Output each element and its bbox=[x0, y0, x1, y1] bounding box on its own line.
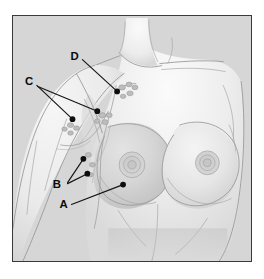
node-central-3 bbox=[102, 120, 108, 125]
node-central-4 bbox=[95, 119, 101, 123]
callout-b-dot-1 bbox=[81, 156, 87, 162]
node-central-1 bbox=[99, 113, 106, 118]
callout-c-dot-2 bbox=[94, 108, 100, 114]
node-central-2 bbox=[106, 113, 112, 118]
node-pectoral-2 bbox=[89, 163, 95, 168]
lower-torso-shade bbox=[108, 228, 227, 261]
callout-b-label: B bbox=[53, 178, 61, 190]
node-apical-4 bbox=[127, 91, 133, 96]
node-apical-1 bbox=[119, 85, 126, 90]
callout-d-label: D bbox=[71, 50, 79, 62]
node-pectoral-1 bbox=[85, 152, 91, 157]
right-nipple bbox=[203, 159, 211, 167]
callout-a-dot bbox=[120, 182, 126, 188]
illustration-frame: A B C D bbox=[12, 15, 252, 262]
callout-c-label: C bbox=[25, 75, 33, 87]
anatomy-illustration: A B C D bbox=[13, 16, 251, 261]
left-nipple bbox=[128, 161, 136, 169]
node-lateral-3 bbox=[62, 127, 68, 131]
callout-b-dot-2 bbox=[84, 171, 90, 177]
figure-root: A B C D bbox=[0, 0, 264, 279]
node-apical-5 bbox=[120, 94, 126, 98]
node-apical-2 bbox=[126, 82, 132, 87]
node-apical-3 bbox=[132, 85, 138, 90]
node-lateral-2 bbox=[73, 126, 79, 131]
callout-a-label: A bbox=[60, 198, 68, 210]
node-lateral-1 bbox=[67, 123, 73, 128]
node-lateral-4 bbox=[68, 131, 74, 135]
callout-c-dot-1 bbox=[70, 116, 76, 122]
callout-d-dot bbox=[114, 89, 120, 95]
